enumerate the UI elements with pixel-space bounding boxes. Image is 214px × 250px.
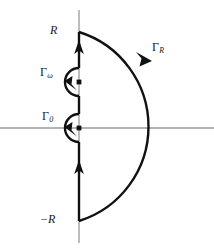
label-omega-indent-arc: Γω [40,66,53,80]
label-bottom-endpoint: −R [40,213,55,225]
pole-origin-marker [77,126,82,131]
arrow-large-arc [136,52,152,67]
contour-diagram-svg [0,0,214,250]
gamma-subscript-large-arc: R [159,46,164,55]
label-origin-indent-arc: Γ0 [42,110,53,124]
gamma-subscript-omega-arc: ω [47,71,53,80]
contour-integration-figure: R −R ΓR Γω Γ0 [0,0,214,250]
gamma-glyph-omega-arc: Γ [40,65,47,79]
gamma-glyph-large-arc: Γ [152,40,159,54]
pole-omega-marker [77,80,82,85]
label-large-arc: ΓR [152,41,164,55]
gamma-glyph-origin-arc: Γ [42,109,49,123]
contour-large-arc [79,32,148,221]
label-top-endpoint: R [50,24,57,36]
gamma-subscript-origin-arc: 0 [49,115,53,124]
